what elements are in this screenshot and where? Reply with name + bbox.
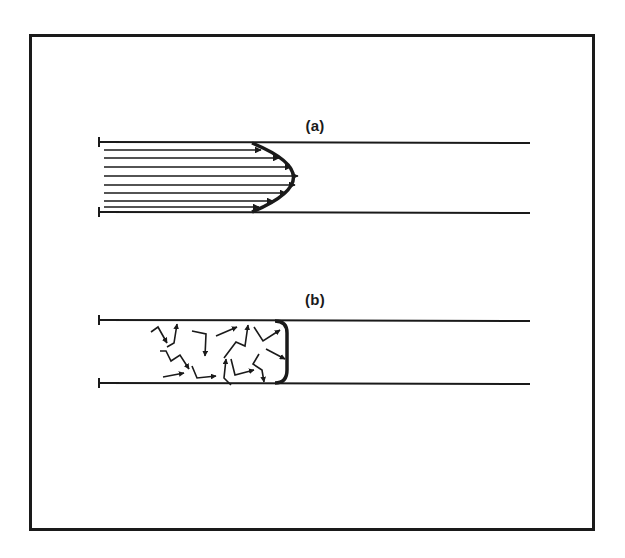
eddy-arrow (266, 349, 285, 359)
eddy-arrow (151, 327, 167, 343)
eddy-arrow (224, 325, 248, 358)
eddy-arrow (192, 366, 216, 378)
eddy-arrow (254, 327, 280, 341)
turbulent-eddies (151, 324, 285, 385)
laminar-streamlines (104, 150, 298, 207)
eddy-arrow (160, 351, 189, 369)
pipe-b-bottom-wall (99, 383, 530, 384)
pipe-b-top-wall (99, 320, 530, 321)
pipe-a (99, 137, 530, 217)
flow-diagram (0, 0, 625, 558)
eddy-arrow (253, 354, 264, 382)
pipe-a-top-wall (99, 142, 530, 143)
eddy-arrow (231, 359, 254, 375)
blunt-velocity-profile (275, 321, 287, 383)
eddy-arrow (192, 331, 206, 356)
eddy-arrow (224, 359, 231, 385)
eddy-arrow (216, 327, 237, 336)
pipe-a-bottom-wall (99, 212, 530, 213)
eddy-arrow (167, 324, 177, 347)
eddy-arrow (163, 373, 184, 377)
